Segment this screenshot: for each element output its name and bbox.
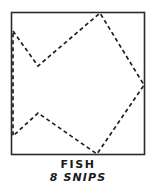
figure-caption: FISH 8 SNIPS <box>0 158 156 184</box>
fish-cut-pattern-figure: FISH 8 SNIPS <box>0 0 156 187</box>
caption-title: FISH <box>0 158 156 171</box>
caption-snip-count: 8 SNIPS <box>0 171 156 184</box>
paper-boundary-square <box>12 13 145 155</box>
